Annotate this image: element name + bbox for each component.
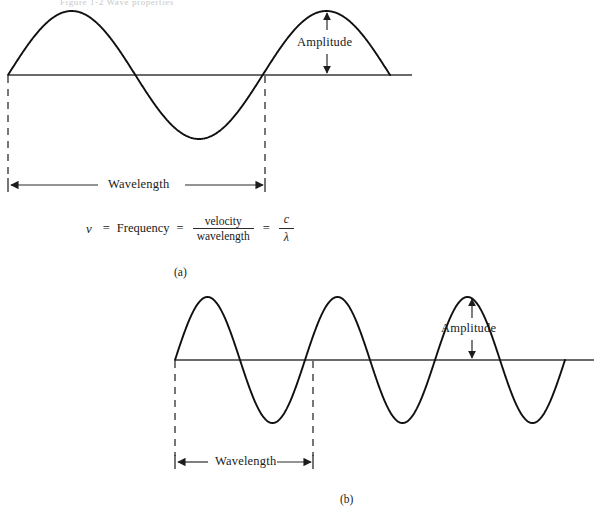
panel-a-part-label: (a) — [174, 267, 187, 279]
equation-fraction1-denominator: wavelength — [193, 228, 254, 242]
equation-c-over-lambda: c λ — [279, 212, 294, 245]
equation-frequency-word: Frequency — [116, 221, 171, 236]
panel-b-amplitude-label: Amplitude — [441, 322, 496, 335]
equation-nu-symbol: ν — [86, 221, 97, 237]
panel-b-part-label: (b) — [340, 494, 353, 506]
wave-diagram-canvas — [0, 0, 601, 521]
wave-figure: Figure 1-2 Wave properties — [0, 0, 601, 521]
equation-equals-1: = — [97, 221, 116, 236]
panel-a-amplitude-label: Amplitude — [297, 36, 352, 49]
panel-a-wavelength-label: Wavelength — [108, 178, 169, 191]
equation-equals-3: = — [257, 221, 276, 236]
equation-fraction2-numerator: c — [279, 212, 294, 228]
panel-b-group — [175, 297, 594, 469]
equation-fraction1-numerator: velocity — [201, 215, 246, 228]
equation-fraction2-denominator: λ — [279, 228, 294, 245]
equation-velocity-over-wavelength: velocity wavelength — [193, 215, 254, 242]
equation-equals-2: = — [171, 221, 190, 236]
frequency-equation: ν = Frequency = velocity wavelength = c … — [86, 212, 297, 245]
panel-b-wavelength-label: Wavelength — [215, 455, 276, 468]
